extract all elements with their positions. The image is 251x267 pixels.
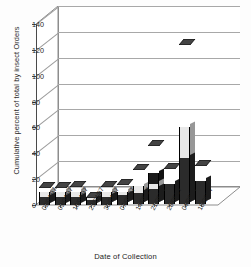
y-tick-label-140: 140: [32, 20, 33, 29]
y-tick-label-60: 60: [32, 123, 33, 132]
bar-top-cap: [55, 174, 72, 180]
y-tick-label-0: 0: [32, 201, 33, 210]
x-axis-labels: 02/04/9709/04/9716/04/9723/04/9730/04/97…: [36, 206, 251, 250]
bar-top-cap: [101, 173, 118, 179]
bar-top-cap: [39, 174, 56, 180]
plot-area: 140 120 100 80 60 40 20 0: [36, 6, 240, 205]
chart-container: Cumulative percent of total by insect Or…: [0, 0, 251, 267]
bar-top-cap: [179, 31, 196, 37]
bar-top-cap: [164, 155, 181, 161]
y-tick-label-20: 20: [32, 175, 33, 184]
bar-top-cap: [133, 156, 150, 162]
y-tick-label-100: 100: [32, 71, 33, 80]
y-tick-label-120: 120: [32, 45, 33, 54]
y-axis-title: Cumulative percent of total by insect Or…: [12, 1, 21, 201]
bar-top-cap: [195, 152, 212, 158]
x-axis-title: Date of Collection: [0, 252, 251, 261]
bar-series-layer: [36, 6, 240, 205]
bar-04-06-97: [179, 36, 195, 204]
y-tick-label-80: 80: [32, 97, 33, 106]
y-tick-label-40: 40: [32, 149, 33, 158]
bar-top-cap: [117, 171, 134, 177]
bar-top-cap: [70, 173, 87, 179]
bar-top-cap: [148, 132, 165, 138]
